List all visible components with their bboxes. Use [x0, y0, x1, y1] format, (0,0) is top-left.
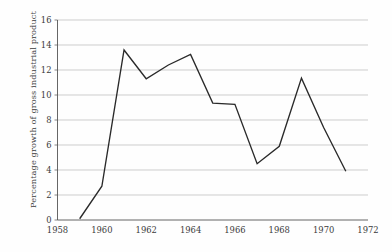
y-tick-label: 10	[41, 90, 52, 100]
line-chart-plot: 0246810121416 19581960196219641966196819…	[0, 0, 392, 252]
x-tick-label: 1972	[357, 225, 378, 235]
y-tick-label: 4	[46, 165, 51, 175]
y-tick-label: 12	[41, 65, 52, 75]
x-tick-labels-group: 19581960196219641966196819701972	[47, 225, 379, 235]
y-tick-label: 14	[41, 40, 52, 50]
chart-figure: Percentage growth of gross industrial pr…	[0, 0, 392, 252]
x-tick-label: 1962	[136, 225, 157, 235]
y-tick-label: 2	[46, 190, 51, 200]
x-tick-label: 1960	[91, 225, 112, 235]
x-tick-label: 1964	[180, 225, 201, 235]
y-tick-label: 0	[46, 215, 51, 225]
y-tick-label: 8	[46, 115, 51, 125]
x-tick-label: 1966	[224, 225, 245, 235]
x-tick-label: 1958	[47, 225, 68, 235]
data-series-line	[80, 50, 346, 219]
y-tick-labels-group: 0246810121416	[41, 15, 52, 225]
y-tick-label: 6	[46, 140, 51, 150]
y-tick-label: 16	[41, 15, 52, 25]
x-tick-label: 1970	[313, 225, 334, 235]
x-tick-label: 1968	[269, 225, 290, 235]
